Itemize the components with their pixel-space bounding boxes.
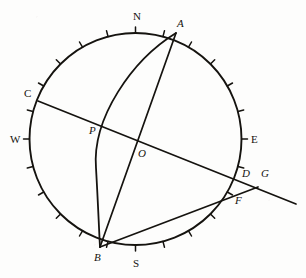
label-D: D — [242, 168, 250, 179]
label-G: G — [261, 168, 269, 179]
label-C: C — [24, 88, 31, 99]
label-O: O — [138, 148, 146, 159]
chord-c-g — [38, 101, 296, 204]
figure-canvas: N S E W A B C D F G O P — [0, 0, 306, 278]
primitive-circle — [30, 33, 242, 245]
label-N: N — [133, 11, 141, 22]
label-A: A — [177, 18, 184, 29]
label-F: F — [235, 195, 242, 206]
circle-tick-marks — [24, 27, 248, 251]
label-W: W — [10, 134, 20, 145]
label-E: E — [251, 134, 258, 145]
sphere-diagram-svg — [0, 0, 306, 278]
label-S: S — [133, 258, 139, 269]
label-B: B — [94, 252, 101, 263]
label-P: P — [89, 125, 96, 136]
